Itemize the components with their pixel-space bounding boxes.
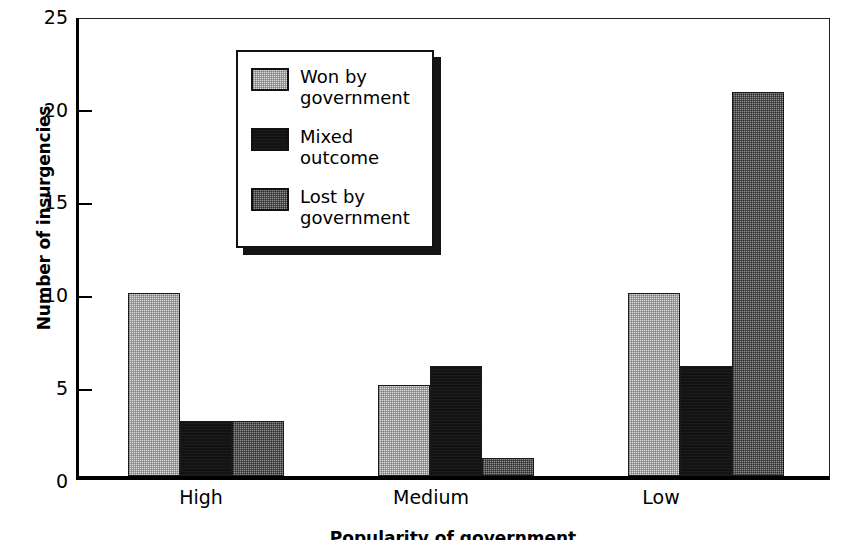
x-axis-title: Popularity of government [76, 528, 830, 540]
y-tick-label-5: 5 [24, 379, 68, 398]
legend-entry-mixed: Mixed outcome [251, 126, 379, 168]
x-tick-label-medium: Medium [348, 486, 514, 508]
y-tick-label-25: 25 [24, 8, 68, 27]
legend-label-lost-by-government: Lost by government [300, 186, 410, 228]
bar-medium-lost [482, 458, 534, 476]
y-tick-label-0: 0 [24, 472, 68, 491]
bar-high-lost [232, 421, 284, 476]
legend: Won by government Mixed outcome Lost by … [236, 50, 434, 248]
x-tick-label-low: Low [578, 486, 744, 508]
bar-group-low [579, 19, 735, 476]
bar-low-lost [732, 92, 784, 476]
legend-entry-lost: Lost by government [251, 186, 410, 228]
legend-label-won-by-government: Won by government [300, 66, 410, 108]
x-tick-label-high: High [118, 486, 284, 508]
plot-area [79, 19, 829, 476]
plot-frame [76, 18, 830, 480]
bar-chart-figure: Number of insurgencies 0 5 10 15 20 25 H… [0, 0, 844, 540]
y-tick-label-20: 20 [24, 101, 68, 120]
bar-medium-won [378, 385, 430, 476]
legend-swatch-lost-by-government [251, 188, 289, 211]
legend-entry-won: Won by government [251, 66, 410, 108]
bar-high-won [128, 293, 180, 476]
y-tick-label-15: 15 [24, 193, 68, 212]
y-axis-tick-labels: 0 5 10 15 20 25 [0, 0, 68, 540]
legend-swatch-mixed-outcome [251, 128, 289, 151]
bar-low-won [628, 293, 680, 476]
bar-group-high [79, 19, 235, 476]
bar-high-mixed [180, 421, 232, 476]
bar-low-mixed [680, 366, 732, 476]
x-axis-tick-labels: High Medium Low [76, 486, 830, 518]
y-tick-label-10: 10 [24, 286, 68, 305]
legend-swatch-won-by-government [251, 68, 289, 91]
bar-medium-mixed [430, 366, 482, 476]
legend-label-mixed-outcome: Mixed outcome [300, 126, 379, 168]
